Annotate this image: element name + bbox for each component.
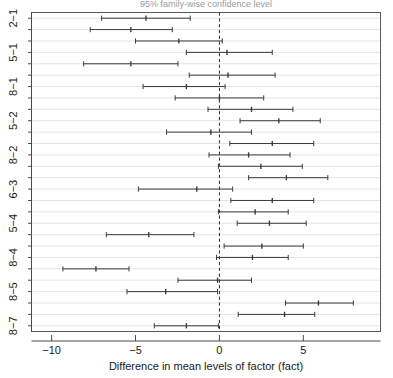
y-axis-tick-label: 2−1 [7,9,19,28]
confidence-interval-row [224,243,303,248]
gridlines-group [33,18,380,326]
y-axis-tick-label: 8−4 [7,248,19,267]
confidence-interval-row [217,255,289,260]
x-axis-group: −10−505 [32,335,381,356]
confidence-interval-row [136,38,223,43]
confidence-intervals-group [63,16,353,329]
y-axis-tick-label: 5−2 [7,111,19,130]
y-axis-tick-label: 5−1 [7,43,19,62]
confidence-interval-row [106,232,194,237]
confidence-interval-row [189,73,275,78]
x-axis-tick-label: −5 [129,344,142,356]
confidence-interval-row [286,300,354,305]
confidence-interval-row [240,118,320,123]
x-axis-title: Difference in mean levels of factor (fac… [109,360,303,372]
chart-title-group: 95% family-wise confidence level [140,0,272,9]
confidence-interval-row [186,50,272,55]
confidence-interval-row [218,164,302,169]
y-axis-group: 2−15−18−15−28−26−35−48−48−58−7 [7,9,32,335]
confidence-interval-row [154,323,218,328]
confidence-interval-row [63,266,129,271]
chart-title: 95% family-wise confidence level [140,0,272,9]
confidence-interval-row [138,186,232,191]
x-axis-tick-label: 0 [216,344,222,356]
confidence-interval-row [238,312,315,317]
confidence-interval-row [167,130,252,135]
y-axis-tick-label: 5−4 [7,214,19,233]
y-axis-tick-label: 8−7 [7,316,19,335]
confidence-interval-row [90,27,172,32]
y-axis-tick-label: 8−5 [7,282,19,301]
confidence-interval-row [102,16,191,21]
x-axis-tick-label: −10 [42,344,61,356]
y-axis-tick-label: 6−3 [7,180,19,199]
confidence-interval-chart: 95% family-wise confidence level 2−15−18… [0,0,393,378]
x-axis-tick-label: 5 [300,344,306,356]
confidence-interval-row [209,152,290,157]
confidence-interval-row [178,278,251,283]
confidence-interval-row [208,107,293,112]
confidence-interval-row [218,209,288,214]
confidence-interval-row [237,221,306,226]
confidence-interval-row [127,289,218,294]
y-axis-tick-label: 8−1 [7,77,19,96]
confidence-interval-row [249,175,328,180]
x-axis-title-group: Difference in mean levels of factor (fac… [109,360,303,372]
confidence-interval-row [231,198,314,203]
y-axis-tick-label: 8−2 [7,146,19,165]
confidence-interval-row [84,61,178,66]
plot-frame [32,13,381,332]
confidence-interval-row [143,84,225,89]
confidence-interval-row [175,95,264,100]
confidence-interval-row [230,141,314,146]
chart-container: 95% family-wise confidence level 2−15−18… [0,0,393,378]
